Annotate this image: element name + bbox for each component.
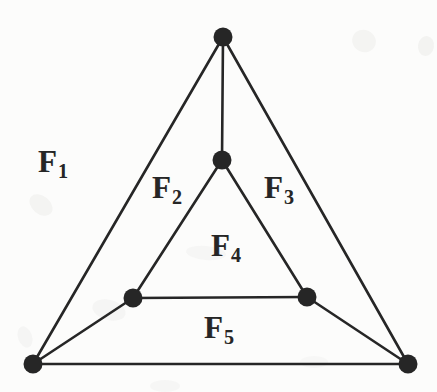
face-label-f2-subscript: 2 bbox=[172, 186, 183, 208]
paper-smudge bbox=[300, 356, 328, 368]
face-label-f3-letter: F bbox=[264, 170, 283, 205]
face-label-f3: F3 bbox=[264, 172, 294, 207]
face-label-f5: F5 bbox=[204, 312, 234, 347]
paper-smudge bbox=[150, 380, 180, 392]
paper-smudge bbox=[25, 190, 56, 221]
face-label-f2: F2 bbox=[152, 172, 182, 207]
top-vertex bbox=[214, 28, 233, 47]
face-label-f4-letter: F bbox=[211, 228, 230, 263]
face-label-f3-subscript: 3 bbox=[284, 186, 295, 208]
paper-smudge bbox=[15, 324, 36, 349]
paper-smudge bbox=[348, 26, 379, 56]
face-label-f5-letter: F bbox=[204, 310, 223, 345]
edge-top-to-inner-top bbox=[222, 37, 223, 160]
edge-inner-right-to-bottom-right bbox=[307, 297, 408, 364]
paper-smudge bbox=[416, 35, 435, 57]
face-label-f5-subscript: 5 bbox=[224, 326, 235, 348]
face-label-f4: F4 bbox=[211, 230, 241, 265]
figure-container: F1 F2 F3 F4 F5 bbox=[0, 0, 437, 392]
bottom-left-vertex bbox=[24, 355, 43, 374]
edge-inner-left-to-inner-right bbox=[133, 297, 307, 298]
edge-inner-left-to-bottom-left bbox=[33, 298, 133, 364]
paper-smudge bbox=[90, 296, 128, 324]
bottom-right-vertex bbox=[399, 355, 418, 374]
face-label-f2-letter: F bbox=[152, 170, 171, 205]
face-label-f1-subscript: 1 bbox=[58, 160, 69, 182]
face-label-f4-subscript: 4 bbox=[231, 244, 242, 266]
inner-left-vertex bbox=[124, 289, 143, 308]
edge-top-to-bottom-right bbox=[223, 37, 408, 364]
inner-top-vertex bbox=[213, 151, 232, 170]
face-label-f1-letter: F bbox=[38, 144, 57, 179]
inner-right-vertex bbox=[298, 288, 317, 307]
face-label-f1: F1 bbox=[38, 146, 68, 181]
